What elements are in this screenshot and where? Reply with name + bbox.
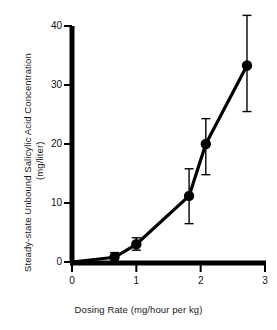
x-tick-label: 1 [128,275,144,286]
data-point-marker [109,252,119,262]
y-tick-label: 40 [40,20,62,31]
data-markers [109,60,252,262]
x-tick-label: 2 [193,275,209,286]
data-line-path [72,66,247,262]
data-point-marker [184,191,194,201]
x-tick-label: 0 [64,275,80,286]
y-tick-label: 0 [40,256,62,267]
y-tick-label: 20 [40,138,62,149]
x-tick-label: 3 [257,275,273,286]
axis-spine [70,26,266,263]
x-axis-label: Dosing Rate (mg/hour per kg) [0,304,277,315]
data-point-marker [131,239,141,249]
error-bars [110,15,252,262]
y-tick-label: 30 [40,79,62,90]
data-point-marker [201,139,211,149]
y-axis-label-line1: Steady-state Unbound Salicylic Acid Conc… [22,53,33,272]
data-point-marker [242,60,252,70]
y-axis-label: Steady-state Unbound Salicylic Acid Conc… [0,0,38,290]
y-tick-label: 10 [40,197,62,208]
chart-figure: Steady-state Unbound Salicylic Acid Conc… [0,0,277,330]
x-axis-label-text: Dosing Rate (mg/hour per kg) [75,304,203,315]
data-line [72,66,247,262]
